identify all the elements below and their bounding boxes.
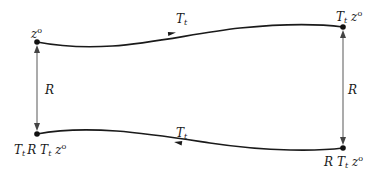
right-down-arrow-icon	[340, 137, 346, 145]
node-label-bottom-right: R Tt zo	[324, 155, 363, 170]
edge-label-bottom: Tt	[176, 127, 187, 141]
left-down-arrow-icon	[34, 123, 40, 131]
bottom-curve-edge	[37, 130, 343, 150]
edge-label-left: R	[45, 84, 54, 96]
node-dot-bottom-left	[34, 131, 40, 137]
top-curve-edge	[37, 25, 343, 47]
node-dot-top-right	[340, 24, 346, 30]
node-label-top-right: Tt zo	[336, 10, 362, 25]
edge-label-top: Tt	[176, 13, 187, 27]
right-up-arrow-icon	[340, 30, 346, 38]
left-up-arrow-icon	[34, 45, 40, 53]
top-edge-arrow-icon	[168, 31, 176, 36]
node-label-top-left: zo	[31, 27, 42, 40]
node-dot-bottom-right	[340, 145, 346, 151]
node-label-bottom-left: TtR Tt zo	[14, 143, 66, 158]
edge-label-right: R	[348, 84, 357, 96]
